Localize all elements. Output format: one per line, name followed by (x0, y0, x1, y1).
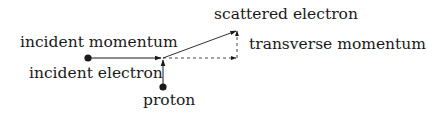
proton-label: proton (143, 91, 195, 109)
diagram-svg: incident momentum incident electron scat… (0, 0, 428, 115)
transverse-momentum-label: transverse momentum (249, 35, 426, 53)
incident-electron-label: incident electron (29, 64, 163, 82)
scattered-electron-label: scattered electron (214, 5, 358, 23)
momentum-diagram: incident momentum incident electron scat… (0, 0, 428, 115)
incident-momentum-label: incident momentum (20, 33, 178, 51)
